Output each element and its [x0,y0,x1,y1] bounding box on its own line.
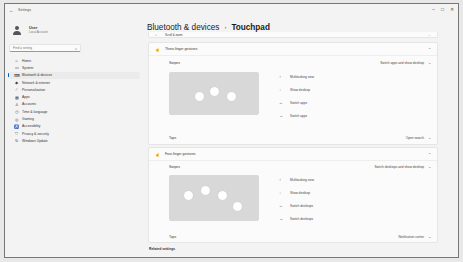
settings-window: ← Settings – □ ✕ User Local Account Find… [4,3,459,258]
scroll-icon: ↕ [155,33,161,37]
swipes-dropdown[interactable]: Switch apps and show desktop⌄ [380,61,431,65]
shield-icon: ⛉ [14,131,19,136]
arrow-up-icon: ↑ [279,74,285,79]
sidebar-item-label: Home [22,59,31,63]
chevron-up-icon: ⌃ [428,47,431,52]
scroll-zoom-label: Scroll & zoom [165,33,182,37]
sidebar-item-label: Personalization [22,88,45,92]
sidebar: User Local Account Find a setting ⌕ ⌂Hom… [5,16,143,257]
related-settings-heading: Related settings [149,247,456,251]
arrow-left-icon: ← [279,203,285,208]
scroll-zoom-card[interactable]: ↕Scroll & zoom ⌄ [148,32,438,38]
taps-value: Notification center [398,235,424,239]
avatar [13,26,21,35]
arrow-right-icon: → [279,113,285,118]
search-placeholder: Find a setting [13,46,32,50]
back-arrow-icon[interactable]: ← [9,7,15,13]
taps-dropdown[interactable]: Notification center⌄ [398,235,431,239]
sidebar-item-label: Accounts [22,102,36,106]
breadcrumb: Bluetooth & devices › Touchpad [147,22,456,32]
action-label: Multitasking view [290,75,314,79]
search-input[interactable]: Find a setting ⌕ [9,44,81,52]
four-finger-title: Four-finger gestures [165,152,196,156]
page-title: Touchpad [231,23,270,32]
sidebar-item-label: Accessibility [22,124,40,128]
search-icon: ⌕ [75,46,77,51]
sidebar-item-label: Privacy & security [22,132,49,136]
swipes-value: Switch desktops and show desktop [374,165,424,169]
apps-icon: ▦ [14,95,19,100]
finger-dot [218,191,227,200]
finger-dot [201,186,210,195]
breadcrumb-separator: › [224,24,226,30]
title-bar: ← Settings – □ ✕ [5,4,458,16]
bluetooth-devices-icon: ⌨ [14,73,19,78]
sidebar-item-accounts[interactable]: ♙Accounts [8,101,140,108]
sidebar-item-windows-update[interactable]: ↻Windows Update [8,137,140,144]
swipes-value: Switch apps and show desktop [380,61,424,65]
maximize-button[interactable]: □ [438,5,447,13]
sidebar-item-label: Time & language [22,110,48,114]
sidebar-nav: ⌂Home ▭System ⌨Bluetooth & devices ◆Netw… [5,57,143,145]
window-title: Settings [18,8,31,12]
taps-label: Taps [169,235,176,239]
touchpad-illustration [169,72,259,115]
action-label: Switch apps [290,114,307,118]
arrow-down-icon: ↓ [279,87,285,92]
three-finger-title: Three-finger gestures [165,47,197,51]
sidebar-item-label: Apps [22,95,30,99]
finger-dot [195,92,204,101]
sidebar-item-accessibility[interactable]: ♿Accessibility [8,123,140,130]
accounts-icon: ♙ [14,102,19,107]
chevron-down-icon: ⌄ [428,165,431,169]
touch-hand-icon: ☝ [155,152,161,157]
finger-dot [227,92,236,101]
brush-icon: ⁄ [14,87,19,92]
minimize-button[interactable]: – [429,5,438,13]
gaming-icon: ◎ [14,117,19,122]
three-finger-gestures-card: ☝Three-finger gestures ⌃ Swipes Switch a… [148,42,438,145]
action-label: Show desktop [290,88,310,92]
breadcrumb-parent[interactable]: Bluetooth & devices [147,23,219,32]
action-label: Switch desktops [290,217,313,221]
sidebar-item-gaming[interactable]: ◎Gaming [8,115,140,122]
sidebar-item-bluetooth-devices[interactable]: ⌨Bluetooth & devices [8,72,140,79]
taps-value: Open search [406,136,424,140]
four-finger-gestures-card: ☝Four-finger gestures ⌃ Swipes Switch de… [148,147,438,243]
finger-dot [210,87,219,96]
four-finger-header[interactable]: ☝Four-finger gestures ⌃ [149,148,437,161]
action-label: Multitasking view [290,178,314,182]
swipes-dropdown[interactable]: Switch desktops and show desktop⌄ [374,165,431,169]
arrow-left-icon: ← [279,100,285,105]
sidebar-item-label: System [22,66,33,70]
three-finger-header[interactable]: ☝Three-finger gestures ⌃ [149,43,437,56]
sidebar-item-privacy-security[interactable]: ⛉Privacy & security [8,130,140,137]
swipes-label: Swipes [169,165,180,169]
update-icon: ↻ [14,138,19,143]
gesture-preview: ↑Multitasking view ↓Show desktop ←Switch… [149,70,437,132]
taps-dropdown[interactable]: Open search⌄ [406,136,431,140]
sidebar-item-home[interactable]: ⌂Home [8,57,140,64]
sidebar-item-network[interactable]: ◆Network & internet [8,79,140,86]
touch-hand-icon: ☝ [155,47,161,52]
chevron-down-icon: ⌄ [428,61,431,65]
arrow-down-icon: ↓ [279,190,285,195]
gesture-actions: ↑Multitasking view ↓Show desktop ←Switch… [279,70,314,122]
sidebar-item-apps[interactable]: ▦Apps [8,93,140,100]
gesture-preview: ↑Multitasking view ↓Show desktop ←Switch… [149,173,437,231]
action-label: Show desktop [290,191,310,195]
action-label: Switch desktops [290,204,313,208]
user-account-type: Local Account [29,30,48,34]
user-profile[interactable]: User Local Account [13,22,143,38]
home-icon: ⌂ [14,58,19,63]
sidebar-item-personalization[interactable]: ⁄Personalization [8,86,140,93]
touchpad-illustration [169,175,259,221]
sidebar-item-label: Gaming [22,117,34,121]
sidebar-item-label: Bluetooth & devices [22,73,52,77]
sidebar-item-label: Network & internet [22,81,50,85]
sidebar-item-system[interactable]: ▭System [8,64,140,71]
action-label: Switch apps [290,101,307,105]
sidebar-item-time-language[interactable]: ◷Time & language [8,108,140,115]
arrow-up-icon: ↑ [279,177,285,182]
close-button[interactable]: ✕ [447,5,456,13]
